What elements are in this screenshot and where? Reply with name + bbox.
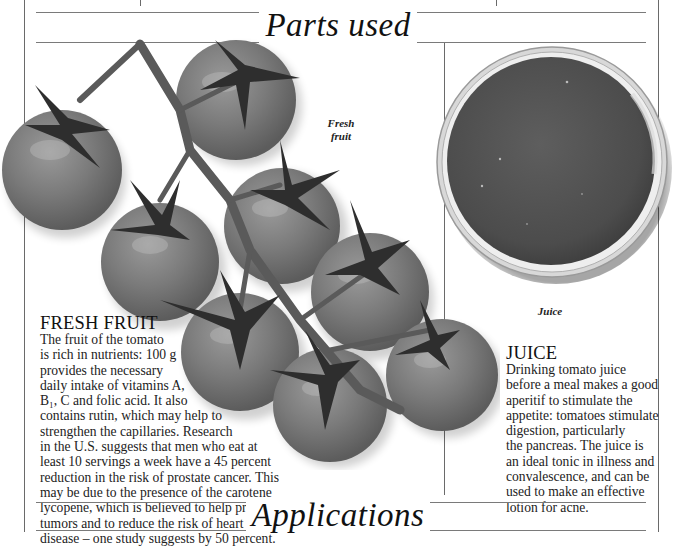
- section-title-applications: Applications: [0, 499, 676, 532]
- juice-caption: Juice: [520, 305, 580, 318]
- entry-body-juice: Drinking tomato juice before a meal make…: [506, 362, 666, 515]
- entry-heading-fresh-fruit: FRESH FRUIT: [40, 314, 360, 332]
- section-title-applications-text: Applications: [246, 497, 431, 533]
- top-tick-left: [140, 0, 141, 6]
- entry-juice: JUICE Drinking tomato juice before a mea…: [506, 344, 666, 515]
- entry-heading-juice: JUICE: [506, 344, 666, 362]
- top-tick-right: [496, 0, 497, 6]
